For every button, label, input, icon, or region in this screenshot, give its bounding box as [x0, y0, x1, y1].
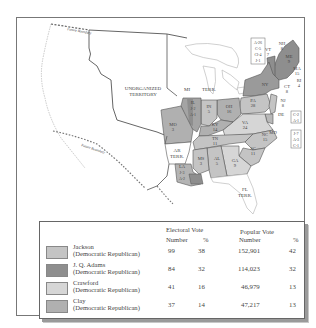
pv-percent: 13 — [289, 283, 296, 290]
swatch-crawford — [46, 282, 68, 295]
label-fl-terr: TERR. — [238, 193, 252, 198]
svg-text:11: 11 — [213, 141, 218, 146]
swatch-clay — [46, 300, 68, 313]
label-unorganized: UNORGANIZED — [125, 86, 162, 91]
svg-text:DE: DE — [278, 112, 284, 117]
candidate-party: (Democratic Republican) — [73, 250, 140, 257]
ar-territory — [165, 142, 191, 164]
legend-row-jackson: Jackson(Democratic Republican) 99 38 152… — [40, 243, 304, 261]
header-electoral-vote: Electoral Vote — [166, 226, 203, 233]
pv-number: 152,901 — [238, 247, 260, 254]
svg-text:IL: IL — [191, 100, 196, 105]
svg-text:4: 4 — [298, 83, 301, 88]
header-ev-number: Number — [166, 236, 188, 243]
candidate-name: Jackson — [73, 243, 140, 250]
map-figure: UNORGANIZED TERRITORY MI TERR. AR TERR. … — [16, 17, 305, 316]
svg-text:7: 7 — [267, 52, 270, 57]
ev-number: 84 — [168, 265, 175, 272]
candidate-name: Clay — [73, 297, 140, 304]
svg-text:A-1: A-1 — [190, 112, 196, 117]
svg-text:NY: NY — [262, 82, 269, 87]
label-territory: TERRITORY — [129, 92, 157, 97]
pv-percent: 42 — [289, 247, 296, 254]
svg-text:A-26: A-26 — [254, 40, 262, 45]
ev-percent: 16 — [198, 283, 205, 290]
header-pv-percent: % — [293, 236, 299, 243]
label-future-boundary-north: Future Boundary — [66, 27, 92, 35]
pv-number: 114,023 — [238, 265, 260, 272]
svg-text:A-1: A-1 — [293, 118, 299, 123]
label-ar-terr: TERR. — [170, 154, 184, 159]
ev-number: 99 — [168, 247, 175, 254]
header-ev-percent: % — [203, 236, 209, 243]
svg-text:J-1: J-1 — [256, 58, 261, 63]
ev-number: 37 — [168, 301, 175, 308]
svg-text:16: 16 — [227, 109, 232, 114]
svg-text:J-2: J-2 — [191, 106, 196, 111]
label-mi: MI — [184, 87, 190, 92]
svg-text:LA: LA — [179, 164, 186, 169]
candidate-party: (Democratic Republican) — [73, 286, 140, 293]
candidate-party: (Democratic Republican) — [73, 268, 140, 275]
ev-number: 41 — [168, 283, 175, 290]
pv-percent: 32 — [289, 265, 296, 272]
pv-number: 47,217 — [241, 301, 260, 308]
svg-text:J-7: J-7 — [294, 131, 299, 136]
swatch-adams — [46, 264, 68, 277]
legend-row-clay: Clay(Democratic Republican) 37 14 47,217… — [40, 297, 304, 315]
svg-text:15: 15 — [295, 71, 300, 76]
pv-percent: 13 — [289, 301, 296, 308]
legend-row-crawford: Crawford(Democratic Republican) 41 16 46… — [40, 279, 304, 297]
header-popular-vote: Popular Vote — [240, 228, 274, 235]
swatch-jackson — [46, 246, 68, 259]
ev-percent: 14 — [198, 301, 205, 308]
svg-text:24: 24 — [243, 125, 248, 130]
pv-number: 46,979 — [241, 283, 260, 290]
svg-text:C-1: C-1 — [293, 143, 299, 148]
ev-percent: 38 — [198, 247, 205, 254]
svg-text:J-3: J-3 — [180, 170, 185, 175]
svg-text:15: 15 — [263, 137, 268, 142]
svg-text:A-2: A-2 — [179, 176, 185, 181]
future-boundary-south — [53, 131, 145, 188]
svg-text:8: 8 — [286, 89, 289, 94]
svg-text:Cl-4: Cl-4 — [254, 52, 261, 57]
results-legend: Electoral Vote Popular Vote Number % Num… — [39, 221, 305, 319]
svg-text:11: 11 — [251, 151, 256, 156]
ev-percent: 32 — [198, 265, 205, 272]
svg-text:C-2: C-2 — [293, 112, 299, 117]
candidate-party: (Democratic Republican) — [73, 304, 140, 311]
svg-text:C-5: C-5 — [255, 46, 261, 51]
header-pv-number: Number — [239, 236, 261, 243]
label-future-boundary-south: Future Boundary — [80, 143, 106, 155]
svg-text:MD: MD — [269, 130, 277, 135]
svg-text:28: 28 — [251, 103, 256, 108]
svg-text:14: 14 — [213, 127, 218, 132]
label-ar: AR — [174, 148, 182, 153]
legend-row-adams: J. Q. Adams(Democratic Republican) 84 32… — [40, 261, 304, 279]
candidate-name: J. Q. Adams — [73, 261, 140, 268]
candidate-name: Crawford — [73, 279, 140, 286]
svg-text:A-3: A-3 — [293, 137, 299, 142]
svg-text:8: 8 — [282, 103, 285, 108]
label-fl: FL — [242, 187, 248, 192]
label-mi-terr: TERR. — [202, 87, 216, 92]
